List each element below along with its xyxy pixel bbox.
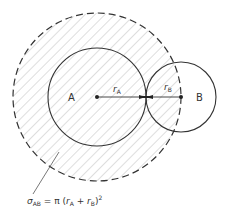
formula-cross-section: σAB = π (rA + rB)2: [27, 194, 102, 207]
label-b: B: [196, 92, 203, 103]
center-b-dot: [179, 95, 183, 99]
center-a-dot: [95, 95, 99, 99]
collision-diagram: A B rA rB σAB = π (rA + rB)2: [0, 0, 226, 222]
label-a: A: [68, 92, 75, 103]
